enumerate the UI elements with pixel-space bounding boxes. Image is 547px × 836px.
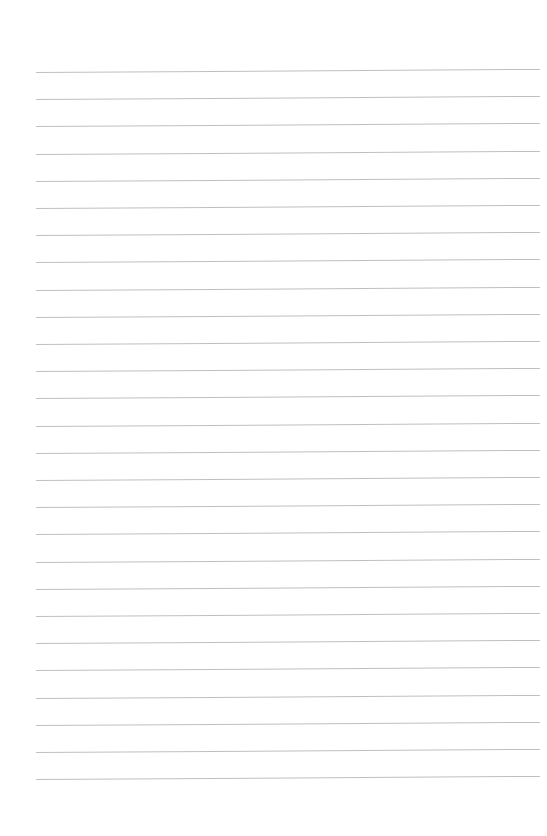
ruled-line xyxy=(36,96,540,100)
ruled-line xyxy=(36,69,540,73)
ruled-line xyxy=(36,531,540,535)
ruled-line xyxy=(36,314,540,318)
ruled-line xyxy=(36,776,540,780)
ruled-line xyxy=(36,259,540,263)
ruled-line xyxy=(36,450,540,454)
ruled-line xyxy=(36,559,540,563)
ruled-line xyxy=(36,205,540,209)
ruled-line xyxy=(36,722,540,726)
ruled-line xyxy=(36,341,540,345)
ruled-line xyxy=(36,395,540,399)
ruled-line xyxy=(36,368,540,372)
lined-paper-page xyxy=(0,0,547,836)
ruled-line xyxy=(36,232,540,236)
ruled-line xyxy=(36,504,540,508)
ruled-line xyxy=(36,695,540,699)
ruled-line xyxy=(36,287,540,291)
ruled-line xyxy=(36,178,540,182)
ruled-line xyxy=(36,749,540,753)
ruled-line xyxy=(36,586,540,590)
ruled-line xyxy=(36,123,540,127)
ruled-line xyxy=(36,613,540,617)
ruled-line xyxy=(36,477,540,481)
ruled-line xyxy=(36,151,540,155)
ruled-line xyxy=(36,640,540,644)
ruled-line xyxy=(36,667,540,671)
ruled-line xyxy=(36,423,540,427)
